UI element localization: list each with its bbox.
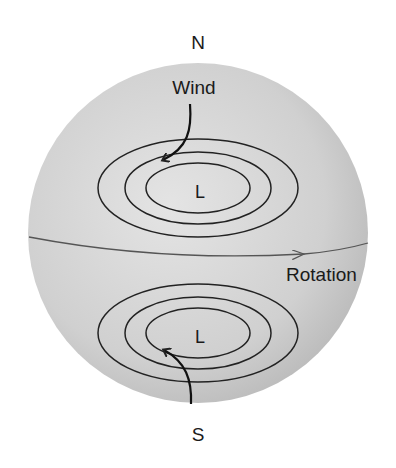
wind-label: Wind — [172, 77, 215, 98]
south-low-label: L — [195, 327, 205, 347]
earth-sphere — [28, 63, 368, 403]
north-low-label: L — [195, 182, 205, 202]
south-pole-label: S — [192, 424, 205, 445]
rotation-label: Rotation — [286, 264, 357, 285]
north-pole-label: N — [191, 32, 205, 53]
earth-circulation-diagram: N Wind L Rotation L S — [0, 0, 396, 468]
